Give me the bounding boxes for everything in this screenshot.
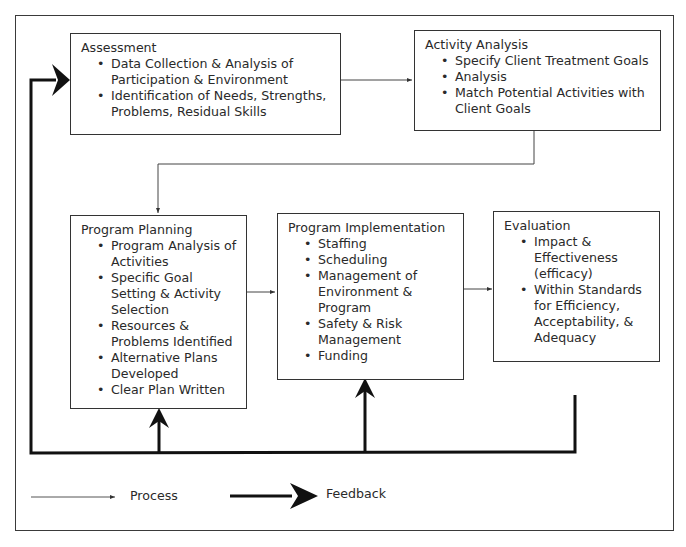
assessment-box: Assessment Data Collection & Analysis of… (70, 33, 341, 135)
list-item: Data Collection & Analysis of Participat… (111, 56, 332, 88)
program-implementation-box: Program Implementation Staffing Scheduli… (277, 213, 464, 380)
program-planning-title: Program Planning (81, 222, 238, 238)
list-item: Funding (318, 348, 455, 364)
list-item: Within Standards for Efficiency, Accepta… (534, 282, 651, 346)
activity-analysis-box: Activity Analysis Specify Client Treatme… (414, 30, 661, 131)
list-item: Alternative Plans Developed (111, 350, 238, 382)
evaluation-title: Evaluation (504, 218, 651, 234)
list-item: Match Potential Activities with Client G… (455, 85, 652, 117)
list-item: Identification of Needs, Strengths, Prob… (111, 88, 332, 120)
list-item: Specify Client Treatment Goals (455, 53, 652, 69)
list-item: Safety & Risk Management (318, 316, 455, 348)
evaluation-list: Impact & Effectiveness (efficacy) Within… (504, 234, 651, 346)
program-implementation-list: Staffing Scheduling Management of Enviro… (288, 236, 455, 364)
activity-analysis-list: Specify Client Treatment Goals Analysis … (425, 53, 652, 117)
program-implementation-title: Program Implementation (288, 220, 455, 236)
legend-process-label: Process (130, 488, 178, 503)
list-item: Staffing (318, 236, 455, 252)
assessment-title: Assessment (81, 40, 332, 56)
program-planning-box: Program Planning Program Analysis of Act… (70, 215, 247, 409)
list-item: Program Analysis of Activities (111, 238, 238, 270)
activity-analysis-title: Activity Analysis (425, 37, 652, 53)
list-item: Management of Environment & Program (318, 268, 455, 316)
list-item: Impact & Effectiveness (efficacy) (534, 234, 651, 282)
list-item: Specific Goal Setting & Activity Selecti… (111, 270, 238, 318)
list-item: Scheduling (318, 252, 455, 268)
assessment-list: Data Collection & Analysis of Participat… (81, 56, 332, 120)
list-item: Clear Plan Written (111, 382, 238, 398)
program-planning-list: Program Analysis of Activities Specific … (81, 238, 238, 398)
list-item: Analysis (455, 69, 652, 85)
evaluation-box: Evaluation Impact & Effectiveness (effic… (493, 211, 660, 362)
legend-feedback-label: Feedback (326, 486, 386, 501)
list-item: Resources & Problems Identified (111, 318, 238, 350)
